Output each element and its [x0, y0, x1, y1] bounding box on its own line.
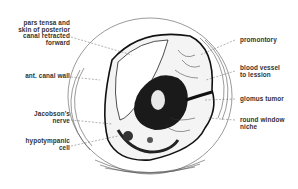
label-ant-canal-wall: ant. canal wall [10, 73, 70, 80]
label-glomus-tumor: glomus tumor [240, 96, 284, 103]
label-line: nerve [10, 118, 70, 125]
label-line: cell [10, 145, 70, 152]
label-line: niche [240, 124, 285, 131]
label-line: promontory [240, 37, 277, 44]
label-line: ant. canal wall [10, 73, 70, 80]
label-pars-tensa: pars tensa and skin of posterior canal r… [10, 20, 70, 46]
label-jacobsons-nerve: Jacobson's nerve [10, 111, 70, 124]
label-line: forward [10, 40, 70, 47]
label-line: to lession [240, 72, 280, 79]
label-hypotympanic-cell: hypotympanic cell [10, 138, 70, 151]
label-promontory: promontory [240, 37, 277, 44]
label-blood-vessel: blood vessel to lession [240, 65, 280, 78]
label-line: glomus tumor [240, 96, 284, 103]
label-round-window: round window niche [240, 117, 285, 130]
